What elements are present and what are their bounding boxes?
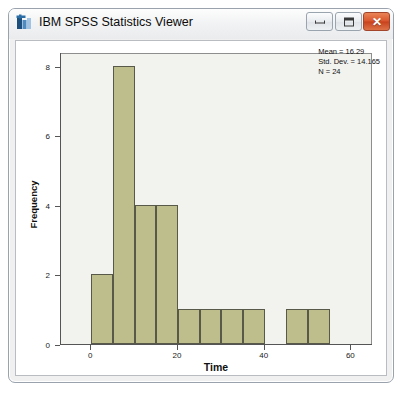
x-axis-tick-label: 20 <box>162 351 192 360</box>
x-axis-tick <box>177 345 178 350</box>
x-axis-tick <box>90 345 91 350</box>
y-axis-title: Frequency <box>28 155 39 255</box>
y-axis-tick <box>55 206 60 207</box>
y-axis-tick <box>55 275 60 276</box>
histogram-bar <box>113 66 135 344</box>
histogram-bar <box>221 309 243 344</box>
plot-area <box>60 53 372 345</box>
x-axis-tick <box>264 345 265 350</box>
maximize-button[interactable] <box>335 12 362 31</box>
histogram-bar <box>91 274 113 344</box>
x-axis-tick-label: 0 <box>75 351 105 360</box>
viewer-output-pane[interactable]: 02468 0204060 Frequency Time Mean = 16.2… <box>15 40 387 376</box>
y-axis-tick-label: 6 <box>16 132 50 141</box>
x-axis-line <box>60 344 372 345</box>
close-button[interactable]: ✕ <box>363 12 390 31</box>
maximize-icon <box>344 17 354 26</box>
x-axis-tick-label: 60 <box>335 351 365 360</box>
histogram-bar <box>286 309 308 344</box>
histogram-bar <box>178 309 200 344</box>
histogram-chart: 02468 0204060 Frequency Time Mean = 16.2… <box>16 41 386 375</box>
histogram-bar <box>243 309 265 344</box>
x-axis-tick-label: 40 <box>249 351 279 360</box>
close-icon: ✕ <box>372 16 382 28</box>
y-axis-tick <box>55 345 60 346</box>
y-axis-tick-label: 8 <box>16 62 50 71</box>
statistics-annotation: Mean = 16.29 Std. Dev. = 14.165 N = 24 <box>318 47 380 77</box>
stat-mean: Mean = 16.29 <box>318 47 380 57</box>
window-title-bar[interactable]: IBM SPSS Statistics Viewer ✕ <box>9 9 393 39</box>
minimize-icon <box>315 21 325 24</box>
histogram-bar <box>156 205 178 344</box>
x-axis-title: Time <box>60 361 372 373</box>
minimize-button[interactable] <box>306 12 333 31</box>
stat-n: N = 24 <box>318 67 380 77</box>
x-axis-tick <box>350 345 351 350</box>
histogram-bar <box>200 309 222 344</box>
y-axis-tick <box>55 67 60 68</box>
spss-app-icon <box>16 14 34 32</box>
window-title: IBM SPSS Statistics Viewer <box>39 15 193 29</box>
cropped-page-caption-strip <box>0 0 402 8</box>
spss-viewer-window: IBM SPSS Statistics Viewer ✕ 02468 02040… <box>8 8 394 383</box>
histogram-bar <box>135 205 157 344</box>
y-axis-tick-label: 2 <box>16 271 50 280</box>
y-axis-tick-label: 0 <box>16 341 50 350</box>
y-axis-line <box>60 53 61 345</box>
stat-std-dev: Std. Dev. = 14.165 <box>318 57 380 67</box>
histogram-bar <box>308 309 330 344</box>
histogram-bars <box>61 54 371 344</box>
y-axis-tick <box>55 136 60 137</box>
